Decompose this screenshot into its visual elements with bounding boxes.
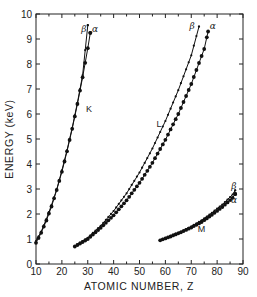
data-point: [182, 100, 186, 104]
x-tick-label: 70: [186, 266, 198, 277]
data-point: [127, 195, 131, 199]
data-point: [115, 206, 117, 208]
data-point: [47, 212, 51, 216]
data-point: [195, 68, 199, 72]
data-point: [193, 45, 195, 47]
x-tick-label: 10: [30, 266, 42, 277]
data-point: [187, 88, 191, 92]
y-tick-label: 4: [26, 159, 32, 170]
data-point: [83, 61, 87, 65]
data-point: [179, 106, 183, 110]
series-k-beta: [35, 24, 89, 242]
data-point: [65, 149, 69, 153]
data-point: [153, 156, 157, 160]
y-tick-label: 10: [21, 9, 33, 20]
x-tick-label: 40: [108, 266, 120, 277]
chart: 102030405060708090 012345678910 KLMβαβαβ…: [0, 0, 257, 297]
data-point: [135, 184, 139, 188]
data-point: [133, 180, 135, 182]
data-point: [140, 177, 144, 181]
data-point: [171, 122, 175, 126]
data-point: [154, 142, 156, 144]
series-k-alpha: [34, 31, 92, 245]
data-point: [161, 143, 165, 147]
y-tick-label: 7: [26, 84, 32, 95]
y-tick-label: 1: [26, 234, 32, 245]
data-point: [174, 117, 178, 121]
data-point: [76, 102, 80, 106]
data-point: [198, 25, 200, 27]
data-point: [172, 101, 174, 103]
data-point: [185, 68, 187, 70]
series-group-label: M: [198, 224, 206, 234]
data-point: [34, 241, 38, 245]
data-point: [167, 114, 169, 116]
series-l-beta: [74, 25, 200, 247]
data-point: [78, 89, 82, 93]
alpha-label: α: [231, 195, 237, 205]
data-point: [166, 133, 170, 137]
x-tick-label: 80: [212, 266, 224, 277]
data-point: [112, 213, 116, 217]
data-point: [182, 75, 184, 77]
alpha-label: α: [210, 21, 216, 31]
data-point: [39, 231, 43, 235]
data-point: [176, 112, 180, 116]
series-group-label: L: [156, 119, 161, 129]
series-m-alpha: [158, 192, 237, 242]
data-point: [190, 54, 192, 56]
data-point: [128, 188, 130, 190]
data-point: [151, 161, 155, 165]
y-tick-label: 5: [26, 134, 32, 145]
data-point: [63, 160, 67, 164]
data-point: [145, 169, 149, 173]
beta-label: β: [230, 181, 236, 191]
data-point: [184, 94, 188, 98]
data-point: [148, 165, 152, 169]
data-point: [175, 95, 177, 97]
y-tick-label: 0: [26, 259, 32, 270]
data-point: [68, 138, 72, 142]
x-tick-label: 20: [56, 266, 68, 277]
data-point: [132, 188, 136, 192]
data-point: [149, 152, 151, 154]
data-point: [157, 136, 159, 138]
data-point: [164, 138, 168, 142]
data-point: [169, 127, 173, 131]
data-point: [177, 89, 179, 91]
x-axis-ticks: 102030405060708090: [30, 14, 249, 277]
data-point: [120, 199, 122, 201]
data-point: [120, 204, 124, 208]
beta-label: β: [80, 24, 86, 34]
data-point: [84, 49, 86, 51]
data-point: [114, 210, 118, 214]
beta-label: β: [188, 21, 194, 31]
x-axis-title: ATOMIC NUMBER, Z: [84, 280, 194, 292]
data-point: [136, 176, 138, 178]
data-point: [146, 157, 148, 159]
data-point: [86, 46, 90, 50]
x-tick-label: 30: [82, 266, 94, 277]
data-point: [138, 181, 142, 185]
y-tick-label: 9: [26, 34, 32, 45]
y-axis-ticks: 012345678910: [21, 9, 243, 270]
x-tick-label: 90: [237, 266, 249, 277]
x-tick-label: 50: [134, 266, 146, 277]
data-point: [52, 196, 56, 200]
data-point: [131, 184, 133, 186]
x-tick-label: 60: [160, 266, 172, 277]
data-point: [60, 170, 64, 174]
data-point: [55, 188, 59, 192]
data-point: [123, 196, 125, 198]
data-point: [45, 219, 49, 223]
y-tick-label: 8: [26, 59, 32, 70]
y-tick-label: 2: [26, 209, 32, 220]
data-point: [87, 24, 89, 26]
data-point: [125, 198, 129, 202]
annotations: KLMβαβαβα: [80, 21, 237, 234]
data-point: [189, 82, 193, 86]
data-point: [122, 201, 126, 205]
data-point: [188, 61, 190, 63]
plot-frame: [36, 14, 243, 264]
data-point: [162, 125, 164, 127]
